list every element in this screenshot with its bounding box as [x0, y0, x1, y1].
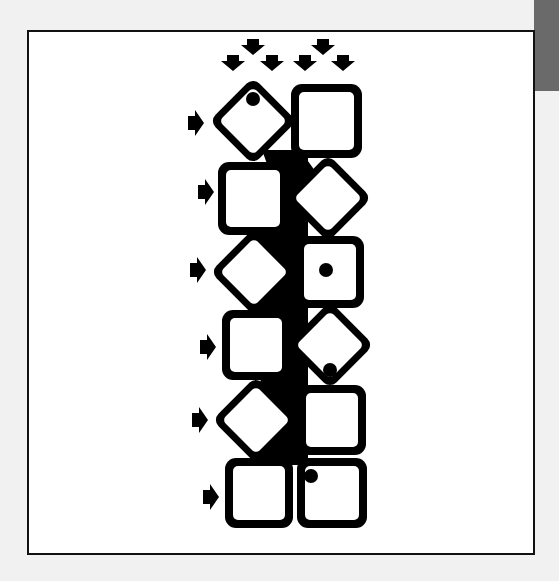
- right-arrow-icon: [198, 179, 214, 205]
- dot-marker: [323, 363, 337, 377]
- square-tile: [298, 385, 366, 455]
- top-arrows: [221, 39, 355, 71]
- dot-marker: [319, 263, 333, 277]
- right-arrow-icon: [192, 407, 208, 433]
- square-tile: [297, 458, 367, 528]
- right-arrow-icon: [188, 110, 204, 136]
- down-arrow-icon: [331, 55, 355, 71]
- square-tile: [225, 458, 293, 528]
- down-arrow-icon: [241, 39, 265, 55]
- down-arrow-icon: [293, 55, 317, 71]
- dot-marker: [304, 469, 318, 483]
- right-arrow-icon: [200, 334, 216, 360]
- down-arrow-icon: [221, 55, 245, 71]
- dot-marker: [246, 92, 260, 106]
- square-tile: [222, 310, 290, 380]
- down-arrow-icon: [311, 39, 335, 55]
- square-tile: [218, 162, 288, 235]
- right-arrow-icon: [190, 257, 206, 283]
- down-arrow-icon: [260, 55, 284, 71]
- right-arrow-icon: [203, 484, 219, 510]
- square-tile: [291, 84, 362, 158]
- tile-diagram: [0, 0, 559, 581]
- side-arrows: [188, 110, 219, 510]
